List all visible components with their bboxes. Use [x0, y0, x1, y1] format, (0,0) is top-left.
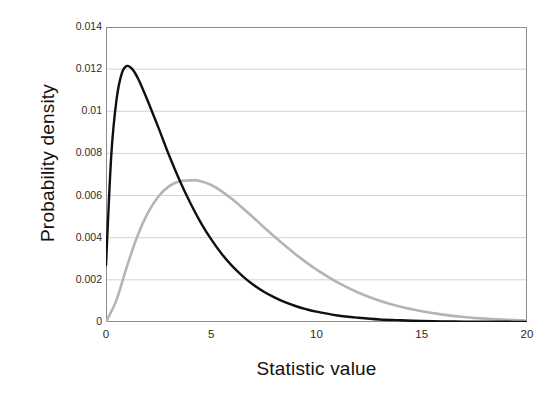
chart-figure: Probability density 00.0020.0040.0060.00…	[0, 0, 557, 402]
y-tick-label: 0.008	[2, 146, 102, 158]
axis-tick-marks	[106, 27, 527, 322]
x-tick-label: 20	[497, 328, 557, 340]
x-axis-tick-labels: 05101520	[106, 328, 527, 350]
y-tick-label: 0.01	[2, 104, 102, 116]
y-tick-label: 0	[2, 315, 102, 327]
y-tick-label: 0.004	[2, 231, 102, 243]
plot-area	[106, 27, 527, 322]
data-curves	[106, 66, 527, 322]
y-tick-label: 0.006	[2, 189, 102, 201]
plot-canvas	[106, 27, 527, 322]
y-tick-label: 0.002	[2, 273, 102, 285]
x-tick-label: 5	[181, 328, 241, 340]
y-axis-tick-labels: 00.0020.0040.0060.0080.010.0120.014	[0, 0, 102, 402]
x-tick-label: 15	[392, 328, 452, 340]
axis-lines	[106, 27, 527, 322]
series-line-gray-curve	[106, 180, 527, 322]
series-line-black-curve	[106, 66, 527, 322]
y-tick-label: 0.012	[2, 62, 102, 74]
y-tick-label: 0.014	[2, 20, 102, 32]
x-tick-label: 0	[76, 328, 136, 340]
x-axis-title: Statistic value	[106, 358, 527, 380]
x-tick-label: 10	[287, 328, 347, 340]
